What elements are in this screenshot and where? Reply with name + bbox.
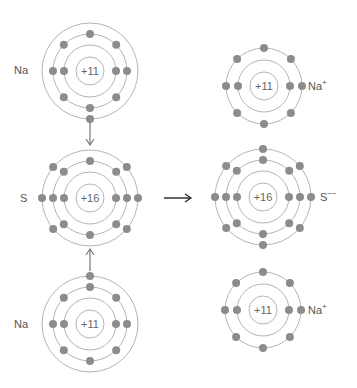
electron: [60, 320, 68, 328]
electron: [286, 279, 294, 287]
electron: [86, 231, 94, 239]
electron: [112, 41, 120, 49]
electron: [232, 279, 240, 287]
electron: [112, 194, 120, 202]
electron: [86, 30, 94, 38]
electron: [285, 219, 293, 227]
electron: [233, 193, 241, 201]
electron: [287, 55, 295, 63]
electron: [234, 82, 242, 90]
electron: [134, 194, 142, 202]
electron: [259, 156, 267, 164]
electron: [233, 219, 241, 227]
arrow-up-icon: [86, 249, 94, 271]
electron: [86, 104, 94, 112]
electron: [297, 306, 305, 314]
electron: [60, 294, 68, 302]
electron: [260, 120, 268, 128]
electron: [60, 168, 68, 176]
electron: [222, 162, 230, 170]
electron: [285, 167, 293, 175]
electron: [60, 194, 68, 202]
electron: [233, 55, 241, 63]
label-na-ion-bottom: Na+: [308, 304, 327, 316]
electron: [221, 306, 229, 314]
label-s-ion: S−−: [320, 191, 337, 203]
electron: [211, 193, 219, 201]
electron: [307, 193, 315, 201]
electron: [286, 82, 294, 90]
nucleus-charge-s-ion: +16: [248, 191, 278, 203]
arrow-down-icon: [86, 122, 94, 145]
electron: [123, 225, 131, 233]
nucleus-charge-s-left: +16: [75, 192, 105, 204]
electron: [296, 193, 304, 201]
electron: [49, 225, 57, 233]
electron: [260, 44, 268, 52]
nucleus-charge-na-ion-bottom: +11: [248, 304, 278, 316]
electron: [112, 320, 120, 328]
label-na-ion-top: Na+: [308, 80, 327, 92]
electron: [259, 268, 267, 276]
electron: [60, 220, 68, 228]
electron: [112, 93, 120, 101]
electron: [298, 82, 306, 90]
label-na-bottom: Na: [14, 318, 28, 330]
electron: [222, 193, 230, 201]
arrow-reaction-icon: [164, 194, 191, 202]
electron: [259, 241, 267, 249]
electron: [296, 224, 304, 232]
electron: [259, 344, 267, 352]
nucleus-charge-na-ion-top: +11: [249, 80, 279, 92]
electron: [49, 194, 57, 202]
electron: [123, 67, 131, 75]
electron: [49, 163, 57, 171]
electron: [86, 272, 94, 280]
ionic-bonding-diagram: [0, 0, 357, 388]
electron: [86, 357, 94, 365]
electron: [112, 346, 120, 354]
electron: [232, 333, 240, 341]
electron: [86, 283, 94, 291]
electron: [60, 93, 68, 101]
label-s-left: S: [20, 192, 27, 204]
electron: [112, 294, 120, 302]
electron: [86, 115, 94, 123]
electron: [285, 193, 293, 201]
electron: [123, 320, 131, 328]
electron: [233, 306, 241, 314]
electron: [286, 333, 294, 341]
electron: [285, 306, 293, 314]
electron: [112, 168, 120, 176]
electron: [233, 109, 241, 117]
electron: [60, 67, 68, 75]
electron: [112, 220, 120, 228]
electron: [86, 157, 94, 165]
electron: [112, 67, 120, 75]
electron: [38, 194, 46, 202]
electron: [259, 230, 267, 238]
electron: [233, 167, 241, 175]
electron: [49, 67, 57, 75]
electron: [123, 163, 131, 171]
electron: [123, 194, 131, 202]
electron: [60, 41, 68, 49]
electron: [49, 320, 57, 328]
electron: [296, 162, 304, 170]
label-na-top: Na: [14, 64, 28, 76]
electron: [259, 145, 267, 153]
nucleus-charge-na-top: +11: [75, 65, 105, 77]
electron: [222, 82, 230, 90]
electron: [60, 346, 68, 354]
electron: [222, 224, 230, 232]
nucleus-charge-na-bottom: +11: [75, 318, 105, 330]
electron: [287, 109, 295, 117]
